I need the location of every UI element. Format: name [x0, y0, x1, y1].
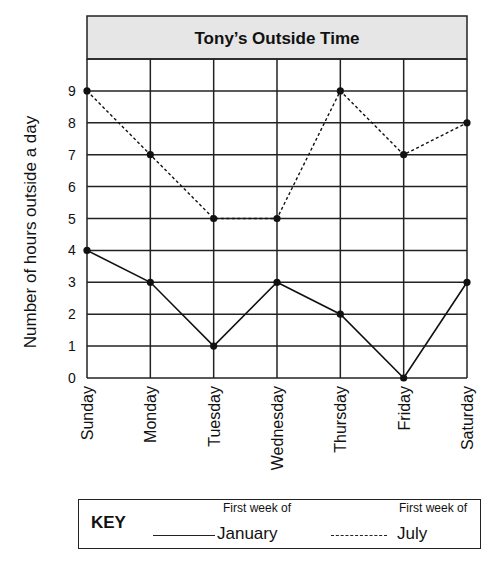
- y-tick-label: 4: [68, 242, 76, 258]
- x-tick-label: Wednesday: [269, 386, 286, 470]
- data-point-marker: [273, 215, 280, 222]
- data-point-marker: [147, 151, 154, 158]
- legend-july-label: July: [397, 524, 427, 544]
- legend-january-sublabel: First week of: [223, 501, 291, 515]
- y-tick-label: 3: [68, 274, 76, 290]
- data-point-marker: [210, 343, 217, 350]
- y-tick-label: 0: [68, 370, 76, 386]
- data-point-marker: [463, 279, 470, 286]
- data-point-marker: [400, 151, 407, 158]
- data-point-marker: [337, 311, 344, 318]
- data-point-marker: [147, 279, 154, 286]
- data-point-marker: [337, 87, 344, 94]
- chart-title: Tony’s Outside Time: [195, 29, 360, 48]
- data-point-marker: [400, 374, 407, 381]
- x-tick-label: Saturday: [459, 386, 476, 450]
- chart-title-bar: Tony’s Outside Time: [87, 16, 467, 59]
- y-tick-label: 2: [68, 306, 76, 322]
- legend-title: KEY: [91, 513, 126, 533]
- y-tick-label: 8: [68, 115, 76, 131]
- legend-solid-line-icon: [153, 535, 215, 536]
- x-tick-label: Thursday: [332, 386, 349, 453]
- x-tick-label: Sunday: [79, 386, 96, 440]
- y-tick-label: 6: [68, 179, 76, 195]
- data-point-marker: [463, 119, 470, 126]
- x-tick-label: Tuesday: [206, 386, 223, 447]
- y-tick-label: 5: [68, 211, 76, 227]
- y-tick-label: 9: [68, 83, 76, 99]
- data-point-marker: [210, 215, 217, 222]
- y-axis-ticks: 0123456789: [68, 83, 76, 386]
- y-tick-label: 7: [68, 147, 76, 163]
- y-tick-label: 1: [68, 338, 76, 354]
- data-point-marker: [273, 279, 280, 286]
- x-tick-label: Friday: [396, 386, 413, 430]
- data-point-marker: [83, 87, 90, 94]
- line-chart: Tony’s Outside Time 0123456789 SundayMon…: [0, 0, 493, 564]
- y-axis-label: Number of hours outside a day: [21, 115, 40, 348]
- legend-key: KEY First week of January First week of …: [78, 499, 481, 549]
- legend-dashed-line-icon: [331, 535, 387, 536]
- legend-july-sublabel: First week of: [399, 501, 467, 515]
- x-axis-ticks: SundayMondayTuesdayWednesdayThursdayFrid…: [79, 386, 476, 470]
- data-point-marker: [83, 247, 90, 254]
- legend-january-label: January: [217, 524, 277, 544]
- x-tick-label: Monday: [142, 386, 159, 443]
- chart-canvas: Tony’s Outside Time 0123456789 SundayMon…: [0, 0, 493, 564]
